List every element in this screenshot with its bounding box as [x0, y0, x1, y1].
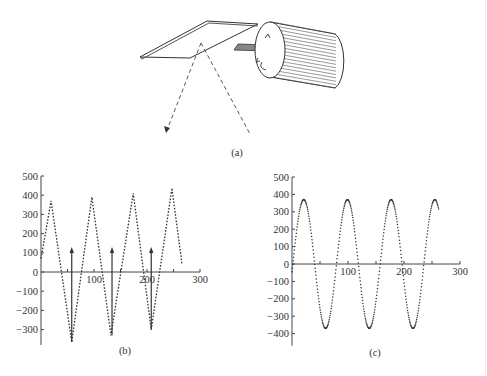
- y-tick-label: −300: [267, 311, 289, 322]
- y-tick-label: 100: [273, 241, 289, 252]
- y-tick-label: 500: [273, 172, 289, 183]
- y-tick-label: −100: [267, 276, 289, 287]
- x-tick-label: 100: [340, 266, 356, 277]
- x-tick-label: 200: [396, 266, 412, 277]
- y-tick-label: −200: [267, 293, 289, 304]
- y-tick-label: 400: [273, 189, 289, 200]
- caption-c: (c): [369, 347, 381, 359]
- y-tick-label: 0: [284, 259, 289, 270]
- y-tick-label: −400: [267, 328, 289, 339]
- y-tick-label: 200: [273, 224, 289, 235]
- x-tick-label: 300: [452, 266, 468, 277]
- chart-c: −400−300−200−100010020030040050010020030…: [0, 0, 487, 376]
- y-tick-label: 300: [273, 206, 289, 217]
